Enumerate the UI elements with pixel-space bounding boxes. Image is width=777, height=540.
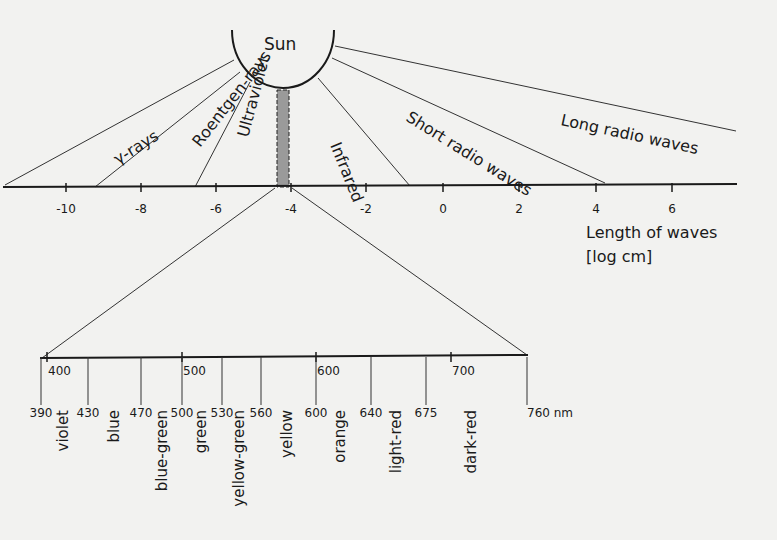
boundary-label: 640: [360, 406, 383, 420]
color-label: dark-red: [462, 410, 480, 474]
band-divider-lines: [5, 46, 736, 187]
visible-light-beam: [277, 90, 289, 187]
nm-tick-label: 400: [48, 364, 71, 378]
boundary-label: 430: [77, 406, 100, 420]
log-tick-label: 4: [592, 202, 600, 216]
log-tick-label: -8: [135, 202, 147, 216]
boundary-label: 560: [250, 406, 273, 420]
axis-title-line1: Length of waves: [586, 223, 717, 242]
expansion-line-left: [42, 188, 275, 358]
visible-wavelength-axis: [40, 355, 528, 358]
boundary-label: 390: [30, 406, 53, 420]
color-label: orange: [331, 410, 349, 463]
axis-title-line2: [log cm]: [586, 247, 652, 266]
expansion-line-right: [292, 188, 527, 355]
color-label: violet: [54, 410, 72, 452]
band-label: γ-rays: [110, 126, 162, 168]
color-label: green: [192, 410, 210, 453]
color-label: yellow-green: [230, 410, 248, 507]
color-label: light-red: [387, 410, 405, 473]
nm-tick-label: 700: [452, 364, 475, 378]
sun-label: Sun: [264, 34, 296, 54]
boundary-label: 500: [171, 406, 194, 420]
electromagnetic-spectrum-diagram: Sun γ-raysRoentgen-raysUltravioletInfrar…: [0, 0, 777, 540]
boundary-label: 600: [305, 406, 328, 420]
color-label: yellow: [278, 410, 296, 458]
boundary-label: 470: [130, 406, 153, 420]
log-wavelength-axis: [3, 184, 737, 187]
log-axis-ticks: -10-8-6-4-20246: [56, 183, 676, 216]
boundary-label: 675: [415, 406, 438, 420]
log-tick-label: 0: [439, 202, 447, 216]
color-labels: violetblueblue-greengreenyellow-greenyel…: [54, 410, 480, 507]
log-tick-label: -6: [210, 202, 222, 216]
nm-tick-label: 500: [183, 364, 206, 378]
boundary-label: 760 nm: [527, 406, 573, 420]
band-label: Long radio waves: [559, 110, 700, 158]
band-labels: γ-raysRoentgen-raysUltravioletInfraredSh…: [110, 47, 700, 205]
log-tick-label: -10: [56, 202, 76, 216]
log-tick-label: 6: [668, 202, 676, 216]
color-label: blue: [105, 410, 123, 442]
band-label: Infrared: [326, 139, 367, 205]
log-tick-label: -2: [360, 202, 372, 216]
color-label: blue-green: [153, 410, 171, 491]
log-tick-label: 2: [515, 202, 523, 216]
nm-tick-label: 600: [317, 364, 340, 378]
log-tick-label: -4: [285, 202, 297, 216]
